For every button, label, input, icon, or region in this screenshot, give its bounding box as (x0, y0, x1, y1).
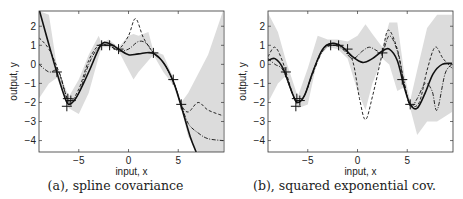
x-tick-label: 0 (355, 155, 361, 166)
y-tick-label: 1 (259, 40, 265, 51)
y-tick-label: −4 (254, 135, 266, 146)
y-tick-label: 2 (30, 21, 36, 32)
x-axis-label: input, x (115, 166, 147, 177)
x-tick-label: 0 (126, 155, 132, 166)
confidence-band (268, 13, 452, 135)
y-tick-label: 2 (259, 21, 265, 32)
x-tick-label: −5 (302, 155, 314, 166)
y-tick-label: −3 (25, 116, 37, 127)
chart-svg-b: −505210−1−2−3−4input, xoutput, y (229, 0, 463, 199)
chart-panel-a: −505210−1−2−3−4input, xoutput, y (a), sp… (0, 0, 231, 199)
confidence-band (39, 11, 223, 152)
chart-caption-a: (a), spline covariance (0, 178, 231, 193)
y-tick-label: −3 (254, 116, 266, 127)
series-mean (39, 9, 196, 152)
y-tick-label: −1 (254, 78, 266, 89)
x-axis-label: input, x (344, 166, 376, 177)
x-tick-label: 5 (404, 155, 410, 166)
x-tick-label: 5 (175, 155, 181, 166)
y-tick-label: 0 (259, 59, 265, 70)
y-tick-label: −4 (25, 135, 37, 146)
y-tick-label: 0 (30, 59, 36, 70)
y-tick-label: −1 (25, 78, 37, 89)
y-axis-label: output, y (237, 62, 248, 100)
chart-caption-b: (b), squared exponential cov. (229, 178, 460, 193)
x-tick-label: −5 (73, 155, 85, 166)
y-axis-label: output, y (8, 62, 19, 100)
chart-svg-a: −505210−1−2−3−4input, xoutput, y (0, 0, 231, 199)
y-tick-label: −2 (25, 97, 37, 108)
chart-panel-b: −505210−1−2−3−4input, xoutput, y (b), sq… (229, 0, 460, 199)
y-tick-label: 1 (30, 40, 36, 51)
y-tick-label: −2 (254, 97, 266, 108)
